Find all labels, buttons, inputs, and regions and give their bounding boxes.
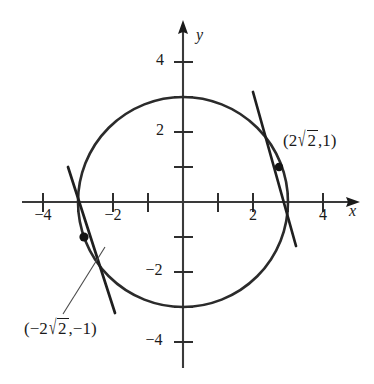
point-marker-lower-left bbox=[79, 232, 88, 241]
radicand-lower-left: 2 bbox=[57, 318, 69, 339]
y-tick-label--2: −2 bbox=[141, 261, 167, 279]
point-marker-upper-right bbox=[275, 163, 283, 171]
x-tick-label--4: −4 bbox=[32, 206, 54, 224]
sqrt-group-upper-right: √2 bbox=[297, 130, 318, 151]
point-label-upper-right-suffix: ,1) bbox=[318, 131, 336, 150]
x-tick-label-4: 4 bbox=[315, 206, 331, 224]
point-label-lower-left-suffix: ,−1) bbox=[69, 319, 97, 338]
radical-sign-icon: √ bbox=[49, 315, 56, 340]
x-tick-label-2: 2 bbox=[245, 206, 261, 224]
point-label-lower-left-prefix: (−2 bbox=[24, 319, 48, 338]
y-tick-label--4: −4 bbox=[141, 331, 167, 349]
y-tick-label-4: 4 bbox=[152, 51, 168, 69]
radical-sign-icon: √ bbox=[298, 127, 305, 152]
x-tick-label--2: −2 bbox=[102, 206, 124, 224]
leader-line bbox=[63, 247, 105, 314]
point-label-upper-right: (2√2,1) bbox=[283, 130, 336, 151]
y-axis-label: y bbox=[196, 26, 203, 44]
point-label-upper-right-prefix: (2 bbox=[283, 131, 297, 150]
y-axis bbox=[178, 20, 188, 368]
tangent-line-lower-left bbox=[68, 167, 115, 313]
sqrt-group-lower-left: √2 bbox=[48, 318, 69, 339]
x-axis-label: x bbox=[349, 202, 356, 220]
point-label-lower-left: (−2√2,−1) bbox=[24, 318, 97, 339]
x-axis bbox=[22, 197, 360, 207]
radicand-upper-right: 2 bbox=[307, 130, 319, 151]
y-tick-label-2: 2 bbox=[152, 121, 168, 139]
